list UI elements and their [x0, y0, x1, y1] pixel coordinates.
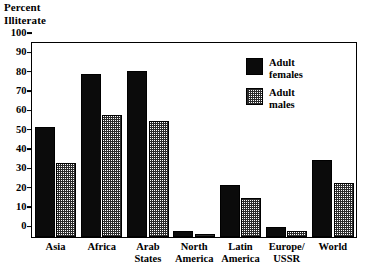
y-axis-tick-mark [27, 206, 32, 207]
x-axis-label: North America [171, 241, 217, 265]
y-axis-tick: 90 [2, 47, 32, 58]
bar-adult-males [195, 234, 215, 237]
y-axis-tick: 70 [2, 86, 32, 97]
y-axis-tick: 20 [2, 183, 32, 194]
y-axis-tick: 30 [2, 163, 32, 174]
bar-adult-males [241, 198, 261, 237]
bar-adult-females [81, 74, 101, 237]
bar-adult-females [173, 231, 193, 237]
bar-adult-females [35, 127, 55, 237]
y-axis-tick-mark [27, 148, 32, 149]
bar-adult-males [102, 115, 122, 237]
legend-swatch-adult-males [246, 88, 263, 105]
y-axis-tick-mark [27, 226, 32, 227]
y-axis-tick-mark [27, 90, 32, 91]
y-axis-tick: 10 [2, 202, 32, 213]
legend-item: Adult males [246, 87, 348, 110]
chart-title: Percent Illiterate [4, 1, 46, 26]
legend-label: Adult females [269, 57, 303, 80]
y-axis-tick-mark [27, 110, 32, 111]
legend-item: Adult females [246, 57, 348, 80]
y-axis-tick: 100 [2, 28, 32, 39]
chart-legend: Adult femalesAdult males [246, 57, 348, 117]
bar-adult-males [56, 163, 76, 237]
bar-adult-males [334, 183, 354, 237]
y-axis-tick-mark [27, 168, 32, 169]
y-axis-tick-mark [27, 32, 32, 33]
bar-adult-males [149, 121, 169, 237]
y-axis-tick-mark [27, 129, 32, 130]
legend-label: Adult males [269, 87, 295, 110]
bar-adult-females [266, 227, 286, 237]
y-axis-tick-mark [27, 187, 32, 188]
bar-adult-females [220, 185, 240, 237]
x-axis-label: World [310, 241, 356, 253]
y-axis-tick: 0 [2, 221, 32, 232]
x-axis-label: Latin America [217, 241, 263, 265]
y-axis-tick: 60 [2, 105, 32, 116]
bar-adult-males [287, 231, 307, 237]
y-axis-tick: 80 [2, 66, 32, 77]
y-axis-tick: 50 [2, 124, 32, 135]
bar-adult-females [312, 160, 332, 237]
y-axis-tick-mark [27, 71, 32, 72]
x-axis-label: Arab States [125, 241, 171, 265]
legend-swatch-adult-females [246, 58, 263, 75]
x-axis-label: Europe/ USSR [264, 241, 310, 265]
y-axis-tick: 40 [2, 144, 32, 155]
x-axis-label: Africa [79, 241, 125, 253]
bar-adult-females [127, 71, 147, 237]
x-axis-label: Asia [32, 241, 78, 253]
y-axis-tick-mark [27, 52, 32, 53]
